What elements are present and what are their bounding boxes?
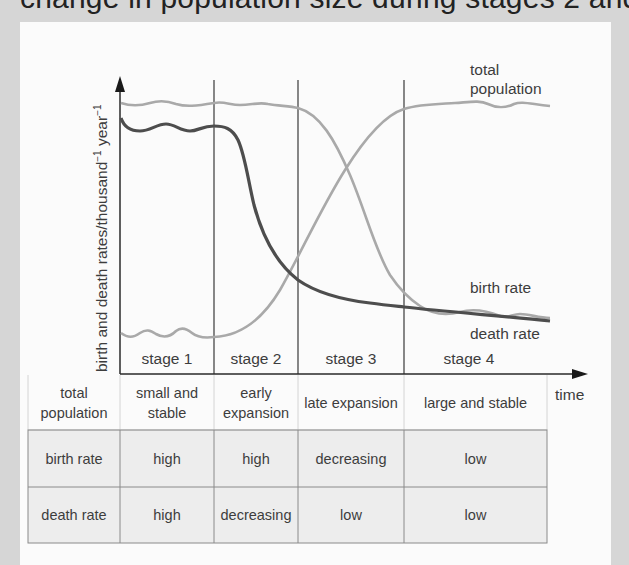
stage-4-label: stage 4 — [404, 350, 534, 368]
y-axis-label-year: year — [93, 116, 110, 150]
y-axis-arrow-icon — [115, 76, 125, 92]
total-population-label-line1: total — [470, 60, 542, 79]
table-cell: high — [214, 430, 298, 487]
table-cell: high — [120, 487, 214, 543]
y-axis-label-sup2: −1 — [92, 104, 103, 115]
total-population-label: total population — [470, 60, 542, 98]
table-row-label-birth-rate: birth rate — [28, 430, 120, 487]
table-cell: low — [404, 487, 547, 543]
table-cell: high — [120, 430, 214, 487]
x-axis-arrow-icon — [572, 369, 588, 379]
table-cell: large and stable — [404, 376, 547, 430]
table-cell: decreasing — [214, 487, 298, 543]
table-cell: low — [298, 487, 404, 543]
stage-2-label: stage 2 — [214, 350, 298, 368]
y-axis-label-text: birth and death rates/thousand — [93, 162, 110, 372]
y-axis-label: birth and death rates/thousand−1 year−1 — [92, 104, 111, 372]
total-population-label-line2: population — [470, 79, 542, 98]
table-row-label-death-rate: death rate — [28, 487, 120, 543]
y-axis-label-sup1: −1 — [92, 150, 103, 161]
table-cell: early expansion — [214, 376, 298, 430]
stage-1-label: stage 1 — [120, 350, 214, 368]
total-population-curve — [121, 102, 550, 338]
table-cell: low — [404, 430, 547, 487]
table-cell: late expansion — [298, 376, 404, 430]
death-rate-label: death rate — [470, 324, 540, 343]
birth-rate-label: birth rate — [470, 278, 531, 297]
stage-3-label: stage 3 — [298, 350, 404, 368]
x-axis-label: time — [555, 386, 584, 404]
table-cell: small and stable — [120, 376, 214, 430]
table-cell: decreasing — [298, 430, 404, 487]
table-row-label-total-population: total population — [28, 376, 120, 430]
